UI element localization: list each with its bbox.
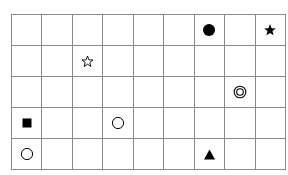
- grid-cell-r4-c4[interactable]: [103, 108, 133, 139]
- grid-row: [12, 77, 286, 108]
- grid-cell-r1-c4[interactable]: [103, 15, 133, 46]
- open-circle-icon: [103, 108, 132, 138]
- grid-cell-r2-c2[interactable]: [42, 46, 72, 77]
- grid-cell-r2-c1[interactable]: [12, 46, 42, 77]
- filled-square-icon: [12, 108, 41, 138]
- grid-row: [12, 15, 286, 46]
- grid-row: [12, 46, 286, 77]
- grid-cell-r2-c8[interactable]: [225, 46, 255, 77]
- grid-cell-r3-c4[interactable]: [103, 77, 133, 108]
- grid-cell-r4-c6[interactable]: [164, 108, 194, 139]
- grid-cell-r1-c3[interactable]: [72, 15, 102, 46]
- grid-cell-r1-c7[interactable]: [194, 15, 224, 46]
- filled-circle-icon: [195, 15, 224, 45]
- grid-cell-r2-c3[interactable]: [72, 46, 102, 77]
- grid-cell-r2-c5[interactable]: [133, 46, 163, 77]
- grid-cell-r4-c9[interactable]: [255, 108, 285, 139]
- grid-cell-r4-c2[interactable]: [42, 108, 72, 139]
- grid-cell-r1-c2[interactable]: [42, 15, 72, 46]
- grid-cell-r1-c5[interactable]: [133, 15, 163, 46]
- grid-cell-r5-c9[interactable]: [255, 139, 285, 170]
- grid-cell-r2-c7[interactable]: [194, 46, 224, 77]
- grid-cell-r1-c1[interactable]: [12, 15, 42, 46]
- grid-row: [12, 108, 286, 139]
- grid-cell-r5-c1[interactable]: [12, 139, 42, 170]
- grid-cell-r4-c3[interactable]: [72, 108, 102, 139]
- grid-cell-r2-c4[interactable]: [103, 46, 133, 77]
- grid-cell-r5-c8[interactable]: [225, 139, 255, 170]
- grid-cell-r5-c4[interactable]: [103, 139, 133, 170]
- grid-cell-r3-c9[interactable]: [255, 77, 285, 108]
- grid-cell-r3-c1[interactable]: [12, 77, 42, 108]
- grid-cell-r1-c9[interactable]: [255, 15, 285, 46]
- grid-cell-r4-c1[interactable]: [12, 108, 42, 139]
- grid-row: [12, 139, 286, 170]
- filled-triangle-icon: [195, 139, 224, 169]
- double-circle-icon: [225, 77, 254, 107]
- open-star-icon: [73, 46, 102, 76]
- open-circle-icon: [12, 139, 41, 169]
- grid-cell-r3-c7[interactable]: [194, 77, 224, 108]
- grid-cell-r5-c2[interactable]: [42, 139, 72, 170]
- grid-cell-r3-c6[interactable]: [164, 77, 194, 108]
- grid-cell-r4-c5[interactable]: [133, 108, 163, 139]
- grid-cell-r2-c6[interactable]: [164, 46, 194, 77]
- grid-cell-r5-c6[interactable]: [164, 139, 194, 170]
- grid-cell-r1-c8[interactable]: [225, 15, 255, 46]
- grid-cell-r3-c5[interactable]: [133, 77, 163, 108]
- grid-cell-r3-c2[interactable]: [42, 77, 72, 108]
- grid-cell-r4-c8[interactable]: [225, 108, 255, 139]
- symbol-grid-container: [11, 14, 276, 164]
- grid-cell-r3-c8[interactable]: [225, 77, 255, 108]
- filled-star-icon: [256, 15, 285, 45]
- grid-cell-r4-c7[interactable]: [194, 108, 224, 139]
- grid-cell-r5-c5[interactable]: [133, 139, 163, 170]
- grid-cell-r1-c6[interactable]: [164, 15, 194, 46]
- symbol-grid: [11, 14, 286, 170]
- grid-cell-r5-c7[interactable]: [194, 139, 224, 170]
- grid-cell-r2-c9[interactable]: [255, 46, 285, 77]
- grid-cell-r5-c3[interactable]: [72, 139, 102, 170]
- grid-cell-r3-c3[interactable]: [72, 77, 102, 108]
- grid-body: [12, 15, 286, 170]
